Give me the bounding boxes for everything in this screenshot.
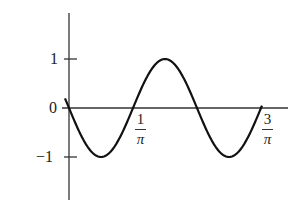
fraction-bar — [135, 129, 146, 130]
x-label-3-den: π — [264, 132, 272, 147]
y-label-1: 1 — [50, 51, 58, 67]
x-label-1-num: 1 — [137, 112, 145, 127]
y-label-0: 0 — [49, 100, 57, 116]
y-label-minus-1: −1 — [36, 149, 53, 165]
x-label-3-num: 3 — [264, 112, 272, 127]
x-label-1-over-pi: 1 π — [135, 112, 146, 147]
x-label-3-over-pi: 3 π — [262, 112, 273, 147]
fraction-bar — [262, 129, 273, 130]
x-label-1-den: π — [137, 132, 145, 147]
chart-canvas — [0, 0, 298, 200]
